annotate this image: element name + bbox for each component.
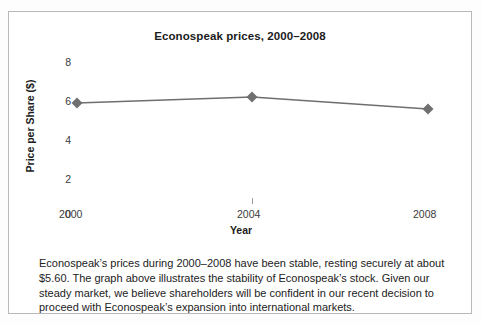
chart-plot-area: Price per Share ($) 8 6 4 2 0 2000 2004 …: [9, 12, 473, 244]
data-point-marker-2000: [72, 98, 83, 109]
data-point-marker-2004: [247, 92, 258, 103]
data-point-marker-2008: [423, 104, 434, 115]
x-axis-tick-2008: 2008: [413, 208, 436, 220]
figure-frame: Econospeak prices, 2000–2008 Price per S…: [8, 11, 472, 314]
x-axis-label: Year: [9, 224, 473, 236]
x-axis-tick-2000: 2000: [59, 208, 82, 220]
page-canvas: Econospeak prices, 2000–2008 Price per S…: [0, 0, 481, 325]
x-axis-tick-mark-2004: [252, 198, 253, 204]
figure-caption: Econospeak’s prices during 2000–2008 hav…: [39, 256, 447, 315]
x-axis-tick-2004: 2004: [237, 208, 260, 220]
